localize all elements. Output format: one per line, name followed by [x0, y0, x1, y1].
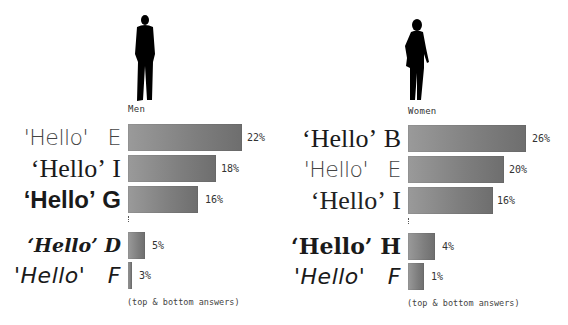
men-label: Men: [128, 104, 145, 114]
value-label: 16%: [205, 186, 223, 213]
women-label: Women: [408, 106, 437, 116]
hello-sample: 'Hello' F: [294, 263, 401, 290]
women-row-2: 'Hello' E 20%: [284, 156, 568, 183]
bar-men-d: [128, 232, 145, 259]
footnote: (top & bottom answers): [127, 297, 240, 307]
hello-sample: 'Hello' F: [14, 262, 121, 289]
bar-women-h: [408, 233, 435, 260]
men-panel: Men 'Hello' E 22% ‘Hello’ I 18% ‘Hello’ …: [0, 0, 284, 325]
men-row-1: 'Hello' E 22%: [0, 124, 284, 151]
women-row-3: ‘Hello’ I 16%: [284, 187, 568, 214]
hello-sample: ‘Hello’ H: [291, 233, 401, 260]
bar-women-f: [408, 263, 424, 290]
value-label: 18%: [221, 155, 239, 182]
bar-men-g: [128, 186, 198, 213]
break-marker: [408, 218, 410, 224]
hello-sample: 'Hello' E: [24, 124, 121, 151]
bar-men-f: [128, 262, 132, 289]
women-row-4: ‘Hello’ H 4%: [284, 233, 568, 260]
value-label: 3%: [139, 262, 151, 289]
value-label: 1%: [431, 263, 443, 290]
men-row-4: ‘Hello’ D 5%: [0, 232, 284, 259]
women-row-1: ‘Hello’ B 26%: [284, 125, 568, 152]
woman-silhouette-icon: [402, 18, 434, 102]
value-label: 26%: [532, 125, 550, 152]
bar-men-e: [128, 124, 242, 151]
hello-sample: 'Hello' E: [304, 156, 401, 183]
women-row-5: 'Hello' F 1%: [284, 263, 568, 290]
bar-men-i: [128, 155, 216, 182]
men-row-2: ‘Hello’ I 18%: [0, 155, 284, 182]
bar-women-b: [408, 125, 526, 152]
hello-sample: ‘Hello’ I: [311, 187, 401, 214]
footnote: (top & bottom answers): [407, 298, 520, 308]
break-marker: [128, 216, 130, 222]
men-row-5: 'Hello' F 3%: [0, 262, 284, 289]
women-panel: Women ‘Hello’ B 26% 'Hello' E 20% ‘Hello…: [284, 0, 568, 325]
value-label: 5%: [152, 232, 164, 259]
man-silhouette-icon: [130, 14, 160, 102]
bar-women-e: [408, 156, 504, 183]
value-label: 22%: [247, 124, 265, 151]
value-label: 16%: [497, 187, 515, 214]
hello-sample: ‘Hello’ D: [28, 232, 122, 259]
hello-sample: ‘Hello’ G: [24, 186, 121, 213]
bar-women-i: [408, 187, 493, 214]
men-row-3: ‘Hello’ G 16%: [0, 186, 284, 213]
hello-sample: ‘Hello’ B: [302, 125, 401, 152]
hello-sample: ‘Hello’ I: [31, 155, 121, 182]
value-label: 20%: [509, 156, 527, 183]
value-label: 4%: [442, 233, 454, 260]
